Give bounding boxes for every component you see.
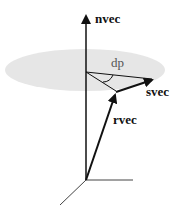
rvec-label: rvec xyxy=(113,112,137,127)
z-axis-diagonal xyxy=(60,180,86,205)
nvec-label: nvec xyxy=(95,11,121,26)
svec-label: svec xyxy=(146,84,169,99)
rvec-arrow xyxy=(86,95,115,180)
vector-diagram: nvec dp svec rvec xyxy=(0,0,178,213)
coordinate-axes xyxy=(60,180,133,205)
dp-label: dp xyxy=(111,55,124,70)
